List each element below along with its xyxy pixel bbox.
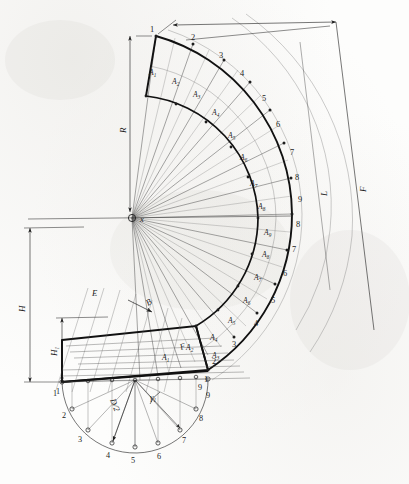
plan-num-4: 4 xyxy=(106,451,110,460)
dimension-radius-R xyxy=(130,36,152,212)
segment-A7-sub: 7 xyxy=(255,183,258,189)
outer-number-1: 1 xyxy=(150,25,154,34)
outer-number-8: 8 xyxy=(295,173,299,182)
segment-A5-sub: 5 xyxy=(233,135,236,141)
outer-number-l6: 6 xyxy=(283,269,287,278)
segment-A9-sub: 9 xyxy=(269,232,272,238)
outer-number-l5: 5 xyxy=(271,296,275,305)
label-centre-x: x xyxy=(139,214,144,224)
svg-text:A2: A2 xyxy=(185,343,194,353)
label-H1: H1 xyxy=(49,347,60,358)
segment-A3-sub: 3 xyxy=(198,94,201,100)
outer-number-l8: 8 xyxy=(296,220,300,229)
outer-number-6: 6 xyxy=(276,120,280,129)
segment-l-A1-sub: 1 xyxy=(167,357,170,363)
label-angle-gamma: γ1 xyxy=(150,392,156,403)
label-F-right: F xyxy=(358,186,368,193)
plan-num-5: 5 xyxy=(131,456,135,465)
svg-text:A5: A5 xyxy=(227,131,236,141)
dimension-H xyxy=(24,227,84,382)
plan-view-semicircle xyxy=(60,375,210,453)
svg-text:A6: A6 xyxy=(239,153,248,163)
label-H1-sub: 1 xyxy=(54,347,60,350)
segment-l-A4-sub: 4 xyxy=(215,337,218,343)
segment-l-A7-sub: 7 xyxy=(259,277,262,283)
outer-number-3: 3 xyxy=(219,51,223,60)
segment-l-A6-sub: 6 xyxy=(248,300,251,306)
svg-text:A4: A4 xyxy=(209,333,218,343)
outer-number-l1: 1 xyxy=(204,375,208,384)
outer-number-9: 9 xyxy=(298,195,302,204)
label-angle-sub: 1 xyxy=(153,397,156,403)
svg-text:A5: A5 xyxy=(227,316,236,326)
paper-texture xyxy=(5,20,409,370)
plan-station-numbers: 1 2 3 4 5 6 7 8 9 xyxy=(53,389,210,465)
plan-num-3: 3 xyxy=(78,435,82,444)
technical-drawing-canvas: 1 2 3 4 5 6 7 8 9 8 7 6 5 4 3 2 1 A1 A2 … xyxy=(0,0,409,484)
svg-text:A3: A3 xyxy=(192,90,201,100)
plan-num-7: 7 xyxy=(182,436,186,445)
dimension-top xyxy=(158,20,336,40)
segment-A2-sub: 2 xyxy=(177,81,180,87)
segment-l-A3-sub: 3 xyxy=(217,355,220,361)
segment-l-A2-sub: 2 xyxy=(191,347,194,353)
base-left-number: 1 xyxy=(56,387,60,396)
plan-num-9: 9 xyxy=(206,391,210,400)
outer-number-2: 2 xyxy=(191,33,195,42)
outer-number-7: 7 xyxy=(290,148,294,157)
segment-A6-sub: 6 xyxy=(245,157,248,163)
svg-text:A1: A1 xyxy=(161,353,170,363)
outer-number-l3: 3 xyxy=(232,340,236,349)
dimension-H1 xyxy=(56,317,108,382)
plan-num-2: 2 xyxy=(62,411,66,420)
label-H: H xyxy=(17,305,27,313)
outer-number-l7: 7 xyxy=(292,245,296,254)
label-E: E xyxy=(91,288,98,298)
svg-text:A8: A8 xyxy=(257,202,266,212)
segment-l-A5-sub: 5 xyxy=(233,320,236,326)
segment-A8-sub: 8 xyxy=(263,206,266,212)
svg-text:A2: A2 xyxy=(171,77,180,87)
base-right-number: 9 xyxy=(198,383,202,392)
svg-text:A3: A3 xyxy=(211,351,220,361)
label-D-over-2: D/2 xyxy=(108,396,123,413)
outer-number-labels-upper: 1 2 3 4 5 6 7 8 9 xyxy=(150,25,302,204)
segment-A1-sub: 1 xyxy=(154,72,157,78)
outer-number-5: 5 xyxy=(262,94,266,103)
label-L: L xyxy=(319,191,329,197)
plan-num-8: 8 xyxy=(199,414,203,423)
segment-A4-sub: 4 xyxy=(217,112,220,118)
svg-text:A1: A1 xyxy=(148,68,157,78)
segment-l-A8-sub: 8 xyxy=(267,254,270,260)
svg-text:A4: A4 xyxy=(211,108,220,118)
plan-num-6: 6 xyxy=(157,452,161,461)
svg-text:A7: A7 xyxy=(249,179,258,189)
label-R: R xyxy=(118,127,128,134)
